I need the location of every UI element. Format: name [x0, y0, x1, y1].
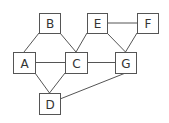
edge-a-d	[35, 73, 50, 93]
node-label: C	[72, 57, 80, 71]
edge-b-a	[24, 33, 39, 52]
edge-c-d	[50, 73, 66, 93]
node-label: A	[20, 57, 29, 71]
edge-e-g	[107, 33, 126, 52]
node-c: C	[66, 53, 88, 74]
node-label: F	[145, 17, 152, 31]
node-f: F	[138, 14, 159, 34]
node-label: D	[45, 98, 54, 112]
node-label: B	[46, 17, 54, 31]
edge-b-c	[60, 33, 76, 52]
edge-g-d	[60, 73, 126, 99]
node-e: E	[88, 14, 108, 34]
node-g: G	[116, 53, 137, 74]
node-label: E	[94, 17, 102, 31]
node-b: B	[40, 14, 61, 34]
edge-f-g	[126, 33, 138, 52]
graph-diagram: ABCDEFG	[0, 0, 169, 123]
node-d: D	[40, 94, 61, 115]
edge-c-e	[76, 33, 87, 52]
node-label: G	[121, 57, 130, 71]
nodes: ABCDEFG	[14, 14, 159, 115]
node-a: A	[14, 53, 36, 74]
